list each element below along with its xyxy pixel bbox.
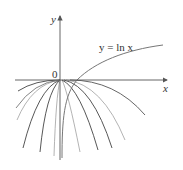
plot-canvas bbox=[0, 0, 183, 170]
ln-curve bbox=[62, 45, 163, 158]
parabola-family bbox=[16, 80, 145, 156]
x-axis-label: x bbox=[163, 83, 168, 94]
y-axis-label: y bbox=[51, 14, 56, 25]
ln-curve-label: y = ln x bbox=[99, 42, 133, 53]
figure: y x 0 y = ln x bbox=[0, 0, 183, 170]
origin-label: 0 bbox=[52, 69, 58, 80]
